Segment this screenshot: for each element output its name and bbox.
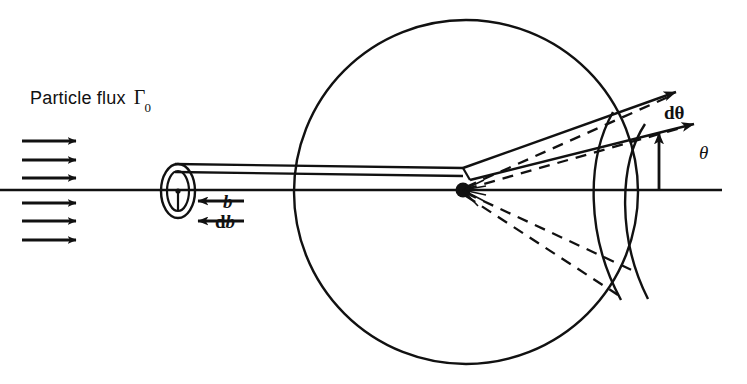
impact-ring-centre-dot: [175, 188, 180, 193]
impact-parameter-differential-label: db: [215, 211, 235, 233]
dashed-ray-lower-inner: [466, 193, 636, 272]
cone-edge-outer: [463, 92, 676, 168]
beam-tube: [175, 164, 470, 180]
db-prefix: d: [215, 211, 226, 232]
db-symbol: b: [226, 211, 236, 232]
d-theta-label: dθ: [664, 102, 684, 124]
detector-arc-left: [594, 112, 621, 300]
flux-gamma-subscript: 0: [144, 100, 151, 115]
particle-flux-label: Particle fluxΓ0: [30, 86, 152, 113]
flux-gamma-symbol: Γ: [126, 86, 146, 108]
beam-tube-lower-edge: [175, 172, 463, 176]
scattering-diagram-figure: Particle fluxΓ0 b db dθ θ: [0, 0, 747, 384]
beam-tube-taper: [463, 168, 470, 180]
dashed-ray-upper-inner: [466, 127, 684, 189]
scattered-trajectories-dashed: [466, 97, 684, 295]
impact-parameter-label: b: [223, 191, 233, 213]
scattering-diagram-canvas: [0, 0, 747, 384]
beam-tube-upper-edge: [175, 164, 463, 168]
theta-label: θ: [699, 142, 708, 164]
impact-parameter-annulus: [161, 164, 195, 218]
particle-flux-text: Particle flux: [30, 88, 126, 108]
